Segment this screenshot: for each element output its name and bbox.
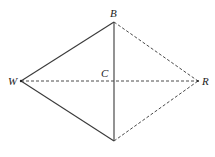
label-C: C — [101, 67, 109, 79]
kite-diagram: B W R C — [0, 0, 215, 157]
label-W: W — [8, 75, 18, 87]
label-B: B — [110, 7, 117, 19]
segment-B-R — [114, 22, 198, 81]
segment-W-bottom — [21, 81, 114, 141]
point-W — [20, 80, 22, 82]
label-R: R — [201, 75, 209, 87]
point-R — [197, 80, 199, 82]
segment-bottom-R — [114, 81, 198, 141]
